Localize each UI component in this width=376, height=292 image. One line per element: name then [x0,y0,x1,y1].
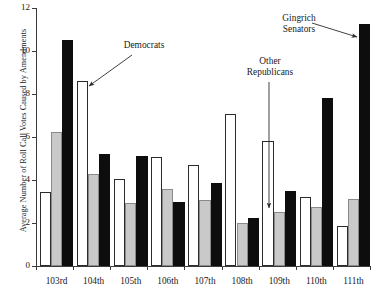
annotation-gingrich-senators: Gingrich Senators [268,13,330,35]
y-tick-label: 4 [8,175,30,184]
bar-111th-democrats [337,226,348,266]
bar-109th-democrats [262,141,273,266]
bar-108th-democrats [225,114,236,266]
y-tick-mark [32,137,36,138]
bar-111th-other-republicans [348,199,359,266]
x-tick-mark [147,266,148,270]
y-tick-mark [32,8,36,9]
bar-106th-other-republicans [162,189,173,266]
x-tick-mark [296,266,297,270]
y-tick-mark [32,180,36,181]
bar-105th-gingrich-senators [136,156,147,266]
bar-104th-gingrich-senators [99,154,110,266]
y-tick-label: 2 [8,218,30,227]
y-tick-mark [32,94,36,95]
y-tick-label: 6 [8,132,30,141]
bar-105th-other-republicans [125,203,136,266]
x-tick-mark [184,266,185,270]
annotation-democrats: Democrats [104,40,184,51]
bar-110th-democrats [300,197,311,266]
x-tick-mark [222,266,223,270]
bar-108th-other-republicans [237,223,248,266]
y-tick-label: 8 [8,89,30,98]
bar-106th-gingrich-senators [173,202,184,267]
x-tick-mark [73,266,74,270]
bar-104th-democrats [77,81,88,266]
bar-110th-other-republicans [311,207,322,266]
y-tick-mark [32,223,36,224]
x-tick-mark [333,266,334,270]
bar-107th-other-republicans [199,200,210,266]
x-tick-mark [110,266,111,270]
bar-103rd-other-republicans [51,132,62,266]
y-tick-label: 12 [8,3,30,12]
bar-105th-democrats [114,179,125,266]
bar-107th-gingrich-senators [211,183,222,266]
y-tick-label: 0 [8,261,30,270]
x-tick-mark [259,266,260,270]
bar-106th-democrats [151,157,162,266]
y-tick-label: 10 [8,46,30,55]
bar-103rd-gingrich-senators [62,40,73,266]
plot-area: 024681012 103rd104th105th106th107th108th… [36,8,370,266]
bar-108th-gingrich-senators [248,218,259,266]
y-tick-mark [32,51,36,52]
bar-110th-gingrich-senators [322,98,333,266]
bar-109th-other-republicans [274,212,285,266]
x-tick-label: 111th [323,276,376,286]
x-axis-line [36,266,370,267]
bar-111th-gingrich-senators [359,24,370,266]
annotation-other-republicans: Other Republicans [232,56,308,78]
bar-109th-gingrich-senators [285,191,296,266]
bar-107th-democrats [188,165,199,266]
x-tick-mark [370,266,371,270]
bar-104th-other-republicans [88,174,99,266]
bar-chart: Average Number of Roll Call Votes Caused… [0,0,376,292]
x-tick-mark [36,266,37,270]
bar-103rd-democrats [40,192,51,266]
y-axis-line [36,8,37,266]
